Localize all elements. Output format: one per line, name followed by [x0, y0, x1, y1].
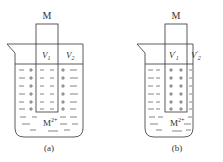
v1-label-a: V1 — [42, 50, 51, 61]
electrode — [165, 24, 187, 112]
ion-label-a: M2+ — [43, 117, 58, 128]
electrode-label-a: M — [43, 10, 52, 21]
electrode-label-b: M — [172, 10, 181, 21]
v2-label-a: V2 — [66, 50, 75, 61]
caption-a: (a) — [44, 143, 54, 153]
electrode — [36, 24, 58, 112]
solution-ion-layer — [29, 68, 65, 111]
panel-b — [137, 24, 193, 137]
double-layer-diagram: M V1 V2 M2+ (a) M V′1 V′2 M2+ (b) — [0, 0, 223, 162]
electrode-charges — [40, 70, 54, 109]
v1-label-b: V′1 — [169, 50, 179, 61]
caption-b: (b) — [172, 143, 183, 153]
v2-label-b: V′2 — [191, 50, 201, 61]
solution-ion-layer — [156, 70, 190, 109]
electrode-charges — [169, 68, 183, 111]
ion-label-b: M2+ — [170, 117, 185, 128]
